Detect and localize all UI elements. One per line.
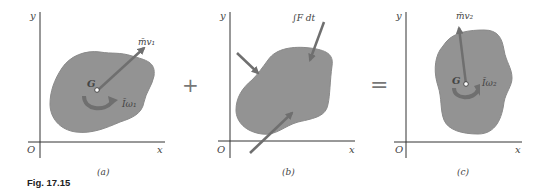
panel-label: (c) (457, 167, 470, 177)
x-axis-label: x (157, 144, 163, 155)
centroid-label: G (452, 75, 461, 86)
y-axis-label: y (395, 10, 402, 21)
equals-operator: = (370, 72, 388, 97)
y-axis-label: y (219, 10, 226, 21)
panel-c: y O x G Īω₂ m̄v₂ (c) (394, 10, 522, 177)
origin-label: O (217, 144, 225, 155)
centroid-marker (464, 82, 469, 87)
panel-a: y O x G Īω₁ m̄v₁ (a) (27, 10, 165, 177)
x-axis-label: x (349, 144, 355, 155)
momentum-label: m̄v₁ (138, 37, 155, 47)
angular-momentum-label: Īω₂ (481, 77, 497, 88)
panel-b: y O x ∫F dt (b) (217, 10, 355, 177)
momentum-label: m̄v₂ (456, 11, 474, 21)
angular-momentum-label: Īω₁ (121, 98, 137, 109)
panel-label: (a) (97, 167, 110, 177)
rigid-body-shape (50, 52, 154, 133)
panel-label: (b) (282, 167, 295, 177)
plus-operator: + (182, 73, 199, 97)
impulse-label: ∫F dt (292, 13, 316, 23)
origin-label: O (395, 144, 403, 155)
impulse-momentum-diagram: y O x G Īω₁ m̄v₁ (a) + y O x ∫F dt (b) =… (0, 0, 543, 193)
impulse-arrow (237, 53, 258, 73)
x-axis-label: x (515, 144, 521, 155)
origin-label: O (27, 144, 35, 155)
figure-caption: Fig. 17.15 (27, 177, 71, 188)
y-axis-label: y (29, 10, 36, 21)
rigid-body-shape (435, 30, 512, 134)
centroid-label: G (87, 78, 96, 89)
